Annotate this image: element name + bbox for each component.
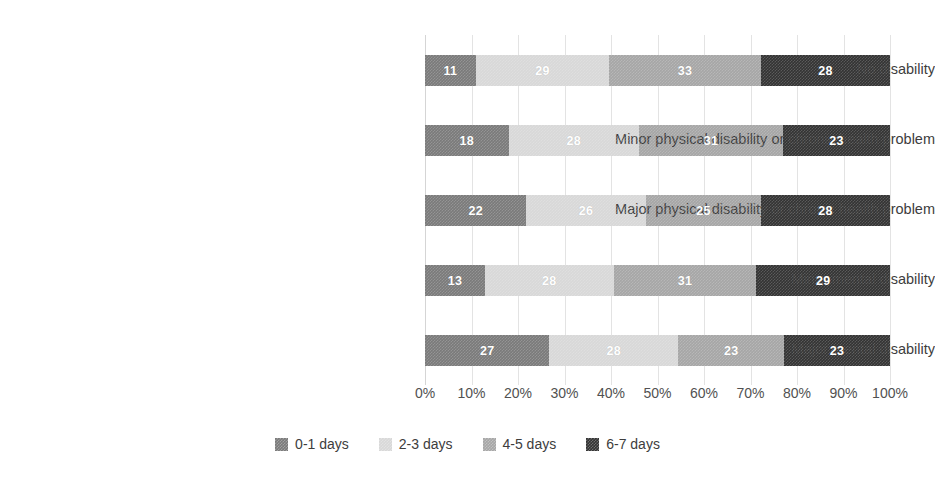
x-tick-0%: 0%: [415, 385, 435, 401]
segment-value-label: 22: [468, 204, 483, 218]
legend-label: 4-5 days: [503, 436, 557, 452]
legend-swatch-icon: [483, 438, 496, 451]
segment-value-label: 28: [567, 134, 582, 148]
segment-value-label: 23: [829, 134, 844, 148]
segment-value-label: 31: [704, 134, 719, 148]
segment-value-label: 11: [443, 64, 457, 78]
segment-value-label: 27: [480, 344, 495, 358]
segment-value-label: 28: [818, 64, 833, 78]
stacked-bar-chart: 1129332818283123222625281328312927282323…: [0, 0, 935, 484]
chart-legend: 0-1 days2-3 days4-5 days6-7 days: [0, 436, 935, 452]
segment-value-label: 13: [448, 274, 463, 288]
x-tick-30%: 30%: [550, 385, 578, 401]
bar-segment-0-1-days: 18: [425, 125, 509, 156]
segment-value-label: 25: [696, 204, 711, 218]
x-tick-20%: 20%: [504, 385, 532, 401]
segment-value-label: 26: [579, 204, 594, 218]
legend-label: 0-1 days: [295, 436, 349, 452]
x-tick-40%: 40%: [597, 385, 625, 401]
category-label: Minor mental disability: [525, 271, 935, 287]
segment-value-label: 18: [460, 134, 475, 148]
x-axis-tick-labels: 0%10%20%30%40%50%60%70%80%90%100%: [425, 385, 890, 411]
legend-swatch-icon: [275, 438, 288, 451]
bar-segment-0-1-days: 13: [425, 265, 485, 296]
x-tick-50%: 50%: [643, 385, 671, 401]
legend-item-6-7-days[interactable]: 6-7 days: [586, 436, 660, 452]
segment-value-label: 31: [678, 274, 693, 288]
segment-value-label: 28: [818, 204, 833, 218]
category-label: Minor physical disability or chronic hea…: [525, 131, 935, 147]
legend-item-4-5-days[interactable]: 4-5 days: [483, 436, 557, 452]
category-label: No disability: [525, 61, 935, 77]
legend-label: 2-3 days: [399, 436, 453, 452]
segment-value-label: 23: [724, 344, 739, 358]
segment-value-label: 29: [535, 64, 550, 78]
segment-value-label: 23: [830, 344, 845, 358]
legend-item-2-3-days[interactable]: 2-3 days: [379, 436, 453, 452]
legend-swatch-icon: [586, 438, 599, 451]
x-tick-10%: 10%: [457, 385, 485, 401]
x-tick-90%: 90%: [829, 385, 857, 401]
legend-label: 6-7 days: [606, 436, 660, 452]
segment-value-label: 28: [606, 344, 621, 358]
segment-value-label: 29: [816, 274, 831, 288]
x-tick-60%: 60%: [690, 385, 718, 401]
legend-item-0-1-days[interactable]: 0-1 days: [275, 436, 349, 452]
segment-value-label: 33: [678, 64, 693, 78]
legend-swatch-icon: [379, 438, 392, 451]
segment-value-label: 28: [542, 274, 557, 288]
bar-segment-0-1-days: 22: [425, 195, 526, 226]
x-tick-70%: 70%: [736, 385, 764, 401]
bar-segment-0-1-days: 11: [425, 55, 476, 86]
x-tick-80%: 80%: [783, 385, 811, 401]
x-tick-100%: 100%: [872, 385, 908, 401]
